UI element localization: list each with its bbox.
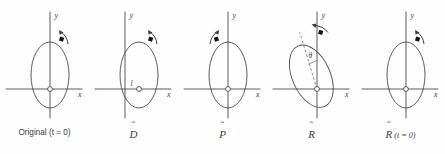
bead-marker — [59, 36, 64, 41]
x-axis-label: x — [433, 90, 438, 99]
operator-symbol-rotated-t0: ˆ R — [385, 128, 392, 140]
panel-rotated-t0: y x ˆ R (t = 0) — [356, 0, 445, 154]
panel-rotated: y x θ ˆ R — [267, 0, 356, 154]
angle-label: θ — [309, 51, 313, 60]
origin-marker — [315, 87, 320, 92]
y-axis-label: y — [321, 11, 326, 20]
ring-ellipse — [281, 38, 343, 114]
angle-arc — [308, 60, 317, 64]
bead-marker — [415, 36, 420, 41]
operator-symbol-rotated: ˆ R — [308, 128, 315, 140]
x-axis-label: x — [255, 90, 260, 99]
operator-symbol-displaced: ˆ D — [130, 128, 138, 140]
panel-rotated-t0-caption: ˆ R (t = 0) — [356, 128, 445, 140]
panel-parity-caption: ˆ P — [178, 128, 267, 140]
hat-accent: ˆ — [387, 121, 390, 131]
figure-container: y x Original (t = 0) y x l ˆ D — [0, 0, 445, 154]
y-axis-label: y — [54, 11, 59, 20]
hat-accent: ˆ — [310, 121, 313, 131]
offset-label: l — [131, 79, 133, 88]
origin-marker — [137, 87, 142, 92]
caption-time-suffix: (t = 0) — [392, 131, 416, 140]
hat-accent: ˆ — [221, 121, 224, 131]
bead-marker — [214, 36, 219, 41]
panel-displaced: y x l ˆ D — [89, 0, 178, 154]
panel-original: y x Original (t = 0) — [0, 0, 89, 154]
tilted-axis-dashed — [300, 32, 317, 89]
panel-displaced-caption: ˆ D — [89, 128, 178, 140]
caption-text: Original (t = 0) — [18, 128, 70, 137]
panel-original-caption: Original (t = 0) — [0, 128, 89, 137]
x-axis-label: x — [344, 90, 349, 99]
origin-marker — [48, 87, 53, 92]
y-axis-label: y — [129, 11, 134, 20]
rotation-arrow-head — [312, 24, 317, 28]
operator-symbol-parity: ˆ P — [219, 128, 226, 140]
y-axis-label: y — [410, 11, 415, 20]
x-axis-label: x — [166, 90, 171, 99]
origin-marker — [404, 87, 409, 92]
ring-ellipse — [120, 42, 158, 108]
y-axis-label: y — [232, 11, 237, 20]
hat-accent: ˆ — [132, 121, 135, 131]
bead-marker — [318, 30, 323, 35]
panel-parity: y x ˆ P — [178, 0, 267, 154]
x-axis-label: x — [77, 90, 82, 99]
bead-marker — [148, 36, 153, 41]
panel-rotated-caption: ˆ R — [267, 128, 356, 140]
origin-marker — [226, 87, 231, 92]
